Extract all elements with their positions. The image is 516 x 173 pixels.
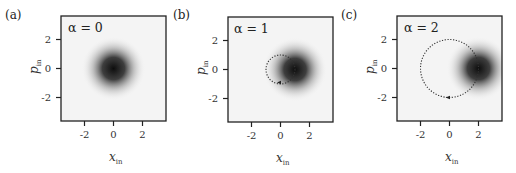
y-tick-label: -2 <box>377 92 387 103</box>
panel-c: (c) 2 0 -2 -2 0 2 xin pin α = 2 <box>336 0 508 173</box>
x-tick-label: 2 <box>306 130 312 141</box>
phase-space-plot: 2 0 -2 -2 0 2 xin pin α = 0 <box>0 0 172 173</box>
gaussian-blob <box>82 37 146 101</box>
alpha-annotation: α = 2 <box>404 20 439 35</box>
y-axis-label: pin <box>194 60 210 75</box>
x-tick-label: 0 <box>277 130 283 141</box>
phase-space-plot: 2 0 -2 -2 0 2 xin pin α = 2 <box>336 0 516 173</box>
y-tick-label: 2 <box>212 35 218 46</box>
y-tick-label: 0 <box>381 63 387 74</box>
y-tick-label: 0 <box>45 63 51 74</box>
x-tick-label: 2 <box>475 129 481 140</box>
y-tick-label: 0 <box>212 64 218 75</box>
x-tick-label: -2 <box>416 129 426 140</box>
y-tick-label: -2 <box>208 93 218 104</box>
y-axis-label: pin <box>27 59 43 74</box>
panel-b: (b) 2 0 -2 -2 0 2 xin pin α = 1 <box>167 0 339 173</box>
panel-a: (a) 2 0 -2 -2 0 2 xin pin α = 0 <box>0 0 172 173</box>
y-tick-label: 2 <box>45 34 51 45</box>
y-tick-label: -2 <box>41 92 51 103</box>
x-tick-label: 2 <box>139 129 145 140</box>
x-axis-label: xin <box>445 150 459 166</box>
phase-space-plot: 2 0 -2 -2 0 2 xin pin α = 1 <box>167 0 339 173</box>
y-tick-label: 2 <box>381 34 387 45</box>
y-axis-label: pin <box>363 59 379 74</box>
x-tick-label: 0 <box>446 129 452 140</box>
x-tick-label: -2 <box>247 130 257 141</box>
alpha-annotation: α = 0 <box>68 20 103 35</box>
x-tick-label: -2 <box>80 129 90 140</box>
alpha-annotation: α = 1 <box>234 21 269 36</box>
x-tick-label: 0 <box>110 129 116 140</box>
x-axis-label: xin <box>109 150 123 166</box>
x-axis-label: xin <box>276 151 290 167</box>
